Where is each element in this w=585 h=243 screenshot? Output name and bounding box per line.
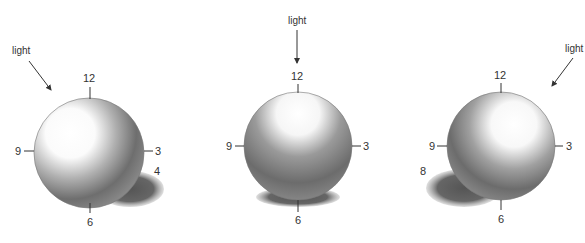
sphere	[447, 92, 555, 200]
clock-label-9: 9	[226, 140, 232, 152]
clock-label-3: 3	[566, 140, 572, 152]
shadow-label-8: 8	[420, 165, 426, 177]
clock-label-9: 9	[15, 145, 21, 157]
clock-label-12: 12	[291, 70, 303, 82]
clock-label-9: 9	[429, 140, 435, 152]
panel-center: light 12 9 3 6	[226, 15, 369, 226]
light-label: light	[565, 43, 584, 54]
light-arrow-icon	[552, 58, 573, 86]
clock-label-6: 6	[87, 216, 93, 228]
sphere	[244, 92, 352, 200]
sphere	[34, 98, 144, 208]
shadow-label-4: 4	[154, 165, 160, 177]
light-label: light	[12, 45, 31, 56]
panel-left: light 12 9 3 4 6	[12, 45, 164, 228]
clock-label-3: 3	[155, 145, 161, 157]
light-arrow-icon	[29, 61, 51, 90]
clock-label-6: 6	[498, 213, 504, 225]
light-label: light	[288, 15, 307, 26]
clock-label-12: 12	[83, 72, 95, 84]
clock-label-6: 6	[295, 214, 301, 226]
sphere-lighting-diagram: light 12 9 3 4 6 light 12 9 3 6 light	[0, 0, 585, 243]
clock-label-3: 3	[363, 140, 369, 152]
panel-right: light 12 9 3 8 6	[420, 43, 584, 225]
clock-label-12: 12	[494, 69, 506, 81]
